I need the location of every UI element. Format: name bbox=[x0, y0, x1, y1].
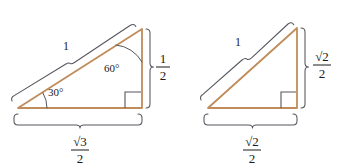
label-angle-60: 60° bbox=[104, 62, 119, 74]
triangle-45-45-90-group: 1 √2 2 √2 2 bbox=[201, 23, 331, 166]
brace-hypotenuse-right-triangle bbox=[201, 23, 294, 100]
geometry-figure: 1 30° 60° √3 2 1 2 bbox=[0, 0, 346, 168]
brace-height-left-triangle bbox=[146, 29, 154, 108]
triangle-30-60-90-outline bbox=[18, 29, 142, 108]
label-angle-30: 30° bbox=[48, 86, 63, 98]
angle-arc-30 bbox=[43, 93, 47, 108]
label-hypotenuse-right: 1 bbox=[235, 35, 241, 49]
triangle-30-60-90-group: 1 30° 60° √3 2 1 2 bbox=[12, 24, 170, 166]
label-height-numerator-left: 1 bbox=[160, 51, 167, 66]
figure-canvas: 1 30° 60° √3 2 1 2 bbox=[0, 0, 346, 168]
right-angle-marker-left-triangle bbox=[125, 92, 141, 108]
brace-height-right-triangle bbox=[301, 28, 309, 108]
label-base-fraction-right: √2 2 bbox=[243, 134, 261, 166]
label-base-numerator-left: √3 bbox=[73, 134, 87, 149]
triangle-45-45-90-outline bbox=[208, 28, 297, 108]
brace-base-left-triangle bbox=[14, 114, 142, 128]
label-base-numerator-right: √2 bbox=[245, 134, 259, 149]
right-angle-marker-right-triangle bbox=[281, 92, 296, 108]
label-base-denominator-left: 2 bbox=[77, 151, 84, 166]
label-height-fraction-right: √2 2 bbox=[313, 49, 331, 81]
label-base-denominator-right: 2 bbox=[249, 151, 256, 166]
brace-base-right-triangle bbox=[204, 114, 297, 128]
label-height-denominator-right: 2 bbox=[319, 66, 326, 81]
label-height-denominator-left: 2 bbox=[160, 68, 167, 83]
label-height-numerator-right: √2 bbox=[315, 49, 329, 64]
angle-arc-60 bbox=[116, 45, 142, 62]
label-height-fraction-left: 1 2 bbox=[156, 51, 170, 83]
label-base-fraction-left: √3 2 bbox=[71, 134, 89, 166]
label-hypotenuse-left: 1 bbox=[63, 39, 69, 53]
